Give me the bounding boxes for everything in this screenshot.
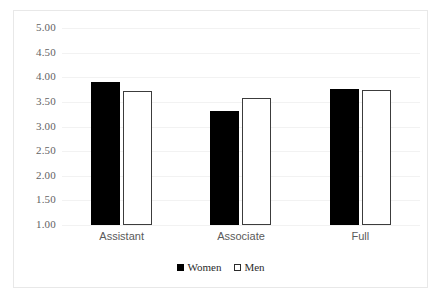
y-axis-tick-label: 5.00 [10, 22, 56, 33]
bar-men-associate [242, 98, 271, 225]
bar-group [181, 28, 300, 225]
y-axis-tick-label: 3.00 [10, 121, 56, 132]
bar-men-assistant [123, 91, 152, 225]
x-axis-tick-label: Associate [181, 230, 300, 242]
y-axis-tick-labels: 5.004.504.003.503.002.502.001.501.00 [10, 28, 56, 225]
y-axis-tick-label: 2.50 [10, 145, 56, 156]
y-axis-tick-label: 2.00 [10, 170, 56, 181]
y-axis-tick-label: 4.50 [10, 47, 56, 58]
x-axis-tick-label: Assistant [62, 230, 181, 242]
bar-women-full [330, 89, 359, 225]
plot-area [62, 28, 420, 225]
legend-swatch-icon [234, 264, 241, 271]
legend-item-men[interactable]: Men [234, 262, 264, 273]
y-axis-tick-label: 4.00 [10, 71, 56, 82]
y-axis-tick-label: 3.50 [10, 96, 56, 107]
bar-women-associate [210, 111, 239, 225]
legend-label: Men [244, 262, 264, 273]
legend-item-women[interactable]: Women [177, 262, 221, 273]
bar-men-full [362, 90, 391, 225]
bar-group [301, 28, 420, 225]
chart-legend: WomenMen [0, 262, 442, 273]
bar-group [62, 28, 181, 225]
legend-label: Women [187, 262, 221, 273]
y-axis-tick-label: 1.00 [10, 219, 56, 230]
bar-chart: 5.004.504.003.503.002.502.001.501.00 Wom… [0, 0, 442, 298]
gridline [62, 225, 420, 226]
bar-women-assistant [91, 82, 120, 225]
y-axis-tick-label: 1.50 [10, 194, 56, 205]
x-axis-tick-label: Full [301, 230, 420, 242]
legend-swatch-icon [177, 264, 184, 271]
